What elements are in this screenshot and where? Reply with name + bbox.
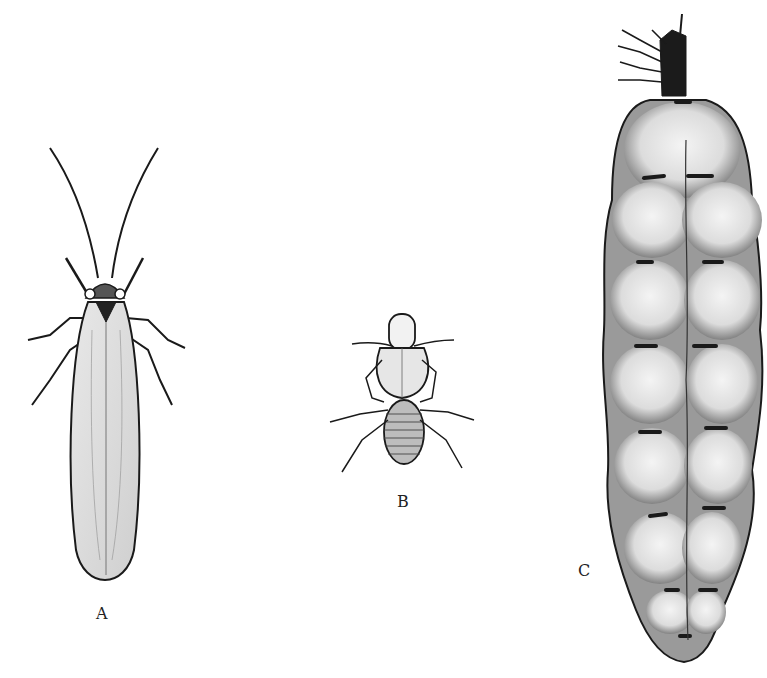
plate-drawing bbox=[0, 0, 767, 678]
figure-label-c: C bbox=[578, 561, 590, 580]
specimen-a-winged-termite bbox=[28, 148, 185, 580]
specimen-b-soldier-termite bbox=[330, 314, 474, 472]
figure-label-a: A bbox=[96, 604, 108, 623]
insect-illustration-plate: A B C bbox=[0, 0, 767, 678]
figure-label-b: B bbox=[397, 492, 409, 511]
specimen-c-termite-queen bbox=[603, 14, 762, 662]
